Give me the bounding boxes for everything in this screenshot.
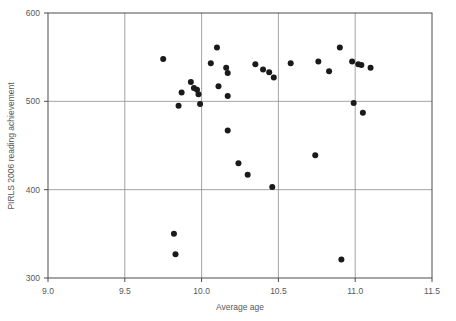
plot-border [48,13,432,278]
data-point [225,70,231,76]
data-point [208,60,214,66]
y-tick-label: 400 [26,185,40,195]
y-axis-title: PIRLS 2006 reading achievement [6,82,16,210]
data-point [269,184,275,190]
data-point [368,65,374,71]
x-tick-label: 10.5 [270,286,287,296]
data-point [176,103,182,109]
data-point [338,256,344,262]
data-point [179,90,185,96]
y-tick-label: 600 [26,8,40,18]
data-point [225,127,231,133]
data-point [215,83,221,89]
y-tick-label: 300 [26,273,40,283]
data-point [172,251,178,257]
data-point [214,44,220,50]
x-tick-label: 11.5 [424,286,440,296]
data-point [196,91,202,97]
data-point [225,93,231,99]
x-tick-label: 11.0 [347,286,363,296]
data-point [271,74,277,80]
tick-marks [44,13,432,282]
data-point [235,160,241,166]
data-point [188,79,194,85]
x-tick-label: 9.0 [42,286,54,296]
data-point [337,44,343,50]
data-point [288,60,294,66]
data-point [358,62,364,68]
y-axis-tick-labels: 300400500600 [26,8,40,283]
data-point [252,61,258,67]
x-tick-label: 9.5 [119,286,131,296]
data-point [171,231,177,237]
data-point [349,59,355,65]
data-point [266,69,272,75]
data-point [260,67,266,73]
data-point [160,56,166,62]
y-tick-label: 500 [26,96,40,106]
data-point [315,59,321,65]
data-point [351,100,357,106]
x-axis-title: Average age [216,302,264,312]
data-point [223,65,229,71]
x-axis-tick-labels: 9.09.510.010.511.011.5 [42,286,440,296]
x-tick-label: 10.0 [193,286,210,296]
grid-lines [48,13,432,278]
chart-canvas: 9.09.510.010.511.011.5 300400500600 Aver… [0,0,456,321]
data-point [312,152,318,158]
plot-frame [48,13,432,278]
data-point [245,172,251,178]
data-point [326,68,332,74]
scatter-chart-figure: 9.09.510.010.511.011.5 300400500600 Aver… [0,0,456,321]
data-point [360,110,366,116]
data-points [160,44,373,262]
data-point [197,101,203,107]
